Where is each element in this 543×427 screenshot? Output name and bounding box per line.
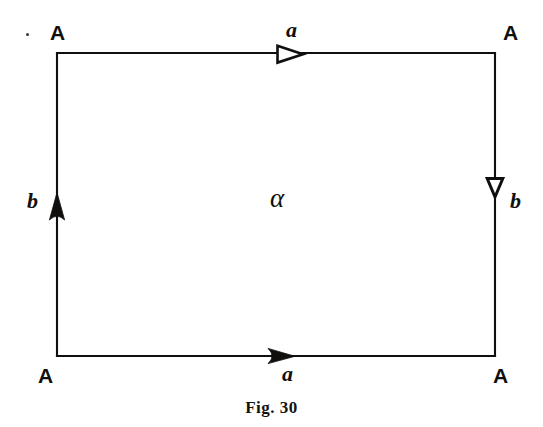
edge-label-right-b: b: [510, 190, 521, 212]
arrowhead-left-filled-triangle: [49, 193, 64, 221]
arrowhead-top-hollow-triangle: [278, 46, 304, 63]
ink-speck-artifact: [26, 33, 29, 36]
vertex-label-bottom-left: A: [38, 365, 53, 386]
edge-label-bottom-a: a: [282, 363, 293, 385]
arrowhead-right-edge: [487, 179, 503, 198]
arrowhead-top-edge: [278, 46, 304, 63]
vertex-label-top-left: A: [50, 22, 65, 43]
vertex-label-bottom-right: A: [493, 365, 508, 386]
identification-square-drawing: [0, 0, 543, 427]
arrowhead-left-edge: [49, 193, 64, 221]
vertex-label-top-right: A: [503, 22, 518, 43]
region-label-alpha: α: [270, 185, 284, 212]
figure-30: A A A A a a b b α Fig. 30: [0, 0, 543, 427]
figure-caption: Fig. 30: [0, 398, 543, 418]
arrowhead-right-hollow-triangle: [487, 179, 503, 198]
edge-label-left-b: b: [27, 190, 38, 212]
edge-label-top-a: a: [286, 19, 297, 41]
